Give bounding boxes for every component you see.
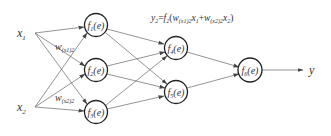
edges-hidden-layer bbox=[106, 29, 167, 109]
svg-text:f3(e): f3(e) bbox=[88, 107, 106, 119]
node-f1: f1(e) bbox=[85, 14, 108, 37]
input-x1: x1 bbox=[16, 26, 26, 42]
output-y: y bbox=[308, 63, 315, 77]
node-f6: f6(e) bbox=[238, 58, 262, 82]
node-f3: f3(e) bbox=[85, 101, 108, 124]
svg-text:f2(e): f2(e) bbox=[88, 65, 106, 77]
weight-label-x1-2: w(x1)2 bbox=[55, 41, 74, 54]
node-f4: f4(e) bbox=[165, 37, 188, 60]
svg-text:f5(e): f5(e) bbox=[168, 87, 186, 99]
svg-text:f6(e): f6(e) bbox=[242, 65, 260, 77]
weight-label-x2-2: w(x2)2 bbox=[55, 92, 74, 105]
formula-y2: y2=f2(w(x1)2x1+w(x2)2x2) bbox=[150, 13, 233, 25]
input-x2: x2 bbox=[16, 100, 26, 116]
node-f5: f5(e) bbox=[165, 81, 188, 104]
svg-text:f1(e): f1(e) bbox=[88, 20, 106, 32]
node-f2: f2(e) bbox=[85, 59, 108, 82]
svg-text:f4(e): f4(e) bbox=[168, 43, 186, 55]
neural-network-diagram: f1(e) f2(e) f3(e) f4(e) f5(e) f6(e) x1 x… bbox=[0, 0, 331, 136]
